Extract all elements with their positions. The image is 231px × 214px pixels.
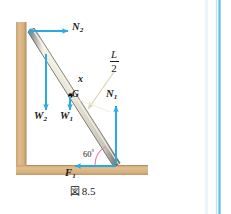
force-label-W2-symbol: W — [34, 110, 43, 121]
half-length-label: L 2 — [106, 49, 122, 74]
caption-symbol: 図 — [70, 186, 80, 197]
force-label-W1-symbol: W — [60, 110, 69, 121]
force-label-N2: N2 — [72, 22, 83, 34]
force-label-N2-subscript: 2 — [80, 26, 84, 34]
angle-value: 60 — [83, 149, 92, 159]
figure-canvas — [0, 0, 231, 214]
force-label-N2-symbol: N — [72, 21, 80, 32]
page-rule-group — [207, 0, 220, 214]
force-label-N1: N1 — [106, 89, 117, 101]
half-length-denominator: 2 — [106, 62, 122, 74]
force-label-N1-subscript: 1 — [114, 93, 118, 101]
distance-label-x: x — [78, 74, 83, 84]
force-label-W2: W2 — [34, 111, 47, 123]
degree-symbol: ° — [92, 148, 95, 155]
force-label-W1-subscript: 1 — [69, 115, 73, 123]
force-label-F1-symbol: F — [65, 167, 72, 178]
center-of-gravity-label: G — [72, 90, 79, 100]
vertical-wall — [16, 22, 26, 170]
force-label-F1: F1 — [65, 168, 76, 180]
angle-label-60: 60° — [83, 149, 94, 159]
physics-figure: N2 W2 W1 N1 F1 G x L 2 60° 図8.5 — [0, 0, 231, 214]
half-length-numerator: L — [106, 49, 122, 61]
figure-caption: 図8.5 — [0, 186, 165, 197]
caption-number: 8.5 — [82, 185, 96, 197]
force-label-F1-subscript: 1 — [72, 172, 76, 180]
force-label-W2-subscript: 2 — [43, 115, 47, 123]
force-label-N1-symbol: N — [106, 88, 114, 99]
force-label-W1: W1 — [60, 111, 73, 123]
